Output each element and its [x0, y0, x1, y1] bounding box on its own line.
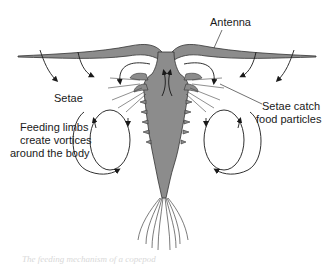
setae-catch-leader — [220, 84, 262, 104]
label-antenna: Antenna — [210, 16, 251, 28]
vortex-right — [204, 110, 261, 174]
copepod-body — [130, 52, 202, 198]
label-feeding-limbs-line1: Feeding limbs — [20, 121, 84, 133]
tail-setae — [138, 198, 188, 250]
label-setae-catch-line2: food particles — [256, 113, 321, 125]
antenna-leader — [214, 30, 222, 48]
label-setae-catch-line1: Setae catch — [262, 100, 320, 112]
label-feeding-limbs-line2: create vortices — [20, 134, 84, 146]
antenna-right — [172, 44, 316, 60]
antenna-left — [18, 44, 162, 60]
label-feeding-limbs-line3: around the body — [10, 147, 84, 159]
caption-partial: The feeding mechanism of a copepod — [22, 254, 156, 264]
label-setae: Setae — [54, 92, 83, 104]
